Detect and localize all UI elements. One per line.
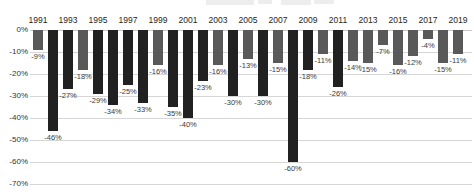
y-axis-tick-label: 0% xyxy=(0,25,28,35)
gridline xyxy=(30,184,472,185)
decline-bar-1999 xyxy=(153,30,163,65)
decline-bar-2011 xyxy=(333,30,343,87)
bar-value-label: -30% xyxy=(216,98,250,107)
y-axis-tick-label: -70% xyxy=(0,179,28,189)
x-axis-year-label: 1995 xyxy=(83,15,113,26)
decline-bar-1997 xyxy=(123,30,133,85)
x-axis-year-label: 2017 xyxy=(413,15,443,26)
x-axis-year-label: 2005 xyxy=(233,15,263,26)
bar-value-label: -11% xyxy=(441,56,474,65)
x-axis-year-label: 2015 xyxy=(383,15,413,26)
x-axis-year-label: 2009 xyxy=(293,15,323,26)
bar-value-label: -27% xyxy=(51,91,85,100)
x-axis-year-label: 1991 xyxy=(23,15,53,26)
decline-bar-2003 xyxy=(213,30,223,65)
decline-bar-1991 xyxy=(33,30,43,50)
y-axis-tick-label: -20% xyxy=(0,69,28,79)
decline-bar-2000 xyxy=(168,30,178,107)
x-axis-year-label: 1993 xyxy=(53,15,83,26)
decline-bar-1992 xyxy=(48,30,58,131)
decline-bar-2008 xyxy=(288,30,298,162)
x-axis-year-label: 1999 xyxy=(143,15,173,26)
gridline xyxy=(30,162,472,163)
decline-bar-2001 xyxy=(183,30,193,118)
bar-value-label: -46% xyxy=(36,133,70,142)
x-axis-year-label: 2007 xyxy=(263,15,293,26)
bar-value-label: -23% xyxy=(186,83,220,92)
bar-value-label: -40% xyxy=(171,120,205,129)
bar-value-label: -34% xyxy=(96,107,130,116)
bar-value-label: -12% xyxy=(396,58,430,67)
gridline xyxy=(30,140,472,141)
y-axis-tick-label: -30% xyxy=(0,91,28,101)
x-axis-year-label: 2013 xyxy=(353,15,383,26)
bar-chart: 0%-10%-20%-30%-40%-50%-60%-70%1991199319… xyxy=(0,0,474,196)
bar-value-label: -60% xyxy=(276,164,310,173)
bar-value-label: -26% xyxy=(321,89,355,98)
y-axis-tick-label: -60% xyxy=(0,157,28,167)
decline-bar-2010 xyxy=(318,30,328,54)
x-axis-year-label: 1997 xyxy=(113,15,143,26)
decline-bar-2006 xyxy=(258,30,268,96)
x-axis-year-label: 2019 xyxy=(443,15,473,26)
x-axis-year-label: 2011 xyxy=(323,15,353,26)
bar-value-label: -33% xyxy=(126,105,160,114)
bar-value-label: -15% xyxy=(351,65,385,74)
decline-bar-1995 xyxy=(93,30,103,94)
decline-bar-2007 xyxy=(273,30,283,63)
bar-value-label: -15% xyxy=(426,65,460,74)
decline-bar-2012 xyxy=(348,30,358,61)
bar-value-label: -18% xyxy=(291,72,325,81)
bar-value-label: -16% xyxy=(381,67,415,76)
decline-bar-2005 xyxy=(243,30,253,59)
bar-value-label: -30% xyxy=(246,98,280,107)
y-axis-tick-label: -40% xyxy=(0,113,28,123)
decline-bar-1994 xyxy=(78,30,88,70)
decline-bar-2019 xyxy=(453,30,463,54)
decline-bar-2017 xyxy=(423,30,433,39)
gridline xyxy=(30,118,472,119)
x-axis-year-label: 2003 xyxy=(203,15,233,26)
y-axis-tick-label: -50% xyxy=(0,135,28,145)
x-axis-year-label: 2001 xyxy=(173,15,203,26)
decline-bar-2014 xyxy=(378,30,388,45)
